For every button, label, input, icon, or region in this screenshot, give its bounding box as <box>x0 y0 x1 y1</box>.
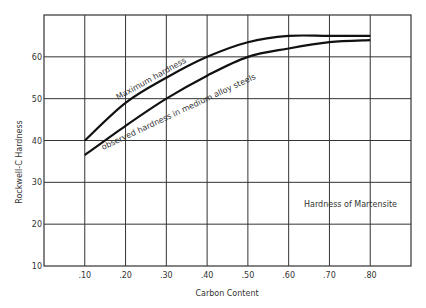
y-tick-label: 20 <box>32 220 42 229</box>
y-tick-label: 40 <box>32 137 42 146</box>
y-tick-label: 30 <box>32 178 42 187</box>
y-axis-label: Rockwell-C Hardness <box>15 120 24 204</box>
x-tick-label: .60 <box>282 271 295 280</box>
x-axis-label: Carbon Content <box>195 289 258 298</box>
y-tick-label: 10 <box>32 262 42 271</box>
series2-label: observed hardness in medium alloy steels <box>100 72 257 152</box>
grid <box>44 15 411 266</box>
x-tick-label: .10 <box>78 271 91 280</box>
hardness-chart: .10.20.30.40.50.60.70.80102030405060 Max… <box>0 0 426 308</box>
y-tick-label: 60 <box>32 53 42 62</box>
axis-ticks: .10.20.30.40.50.60.70.80102030405060 <box>32 53 377 280</box>
x-tick-label: .80 <box>364 271 377 280</box>
x-tick-label: .30 <box>160 271 173 280</box>
x-tick-label: .40 <box>201 271 214 280</box>
x-tick-label: .50 <box>242 271 255 280</box>
x-tick-label: .20 <box>119 271 132 280</box>
y-tick-label: 50 <box>32 95 42 104</box>
x-tick-label: .70 <box>323 271 336 280</box>
annotation-martensite: Hardness of Martensite <box>304 200 397 209</box>
